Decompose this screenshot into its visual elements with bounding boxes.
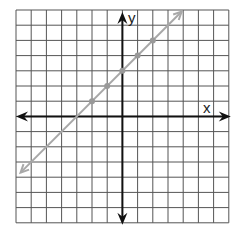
data-point	[150, 37, 156, 43]
x-axis-label: x	[203, 99, 211, 116]
data-point	[119, 68, 125, 74]
data-point	[89, 98, 95, 104]
series-line	[21, 12, 182, 173]
coordinate-plane: x y	[0, 0, 243, 236]
y-axis-label: y	[128, 9, 136, 26]
data-point	[104, 83, 110, 89]
data-point	[135, 53, 141, 59]
data-line	[21, 12, 182, 173]
